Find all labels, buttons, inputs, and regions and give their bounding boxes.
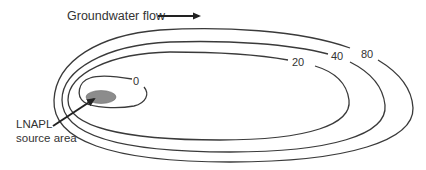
source-label-line2: source area xyxy=(16,132,77,144)
contour-label-80: 80 xyxy=(361,48,373,60)
source-label-line1: LNAPL xyxy=(16,118,53,130)
source-pointer-arrow-icon xyxy=(53,99,94,126)
flow-direction-label: Groundwater flow xyxy=(67,9,166,23)
contour-label-20: 20 xyxy=(292,56,304,68)
plume-diagram: Groundwater flow 0 20 40 80 LNAPL source… xyxy=(0,0,426,170)
contour-label-0: 0 xyxy=(133,75,139,87)
contour-label-40: 40 xyxy=(331,50,343,62)
